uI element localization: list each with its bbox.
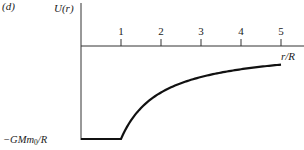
y-min-label: −GMm0/R — [3, 134, 48, 147]
x-ticks: 12345 — [118, 25, 284, 46]
potential-curve — [81, 65, 281, 139]
y-axis-label: U(r) — [54, 2, 74, 15]
x-tick-label: 2 — [158, 25, 164, 37]
panel-label: (d) — [2, 0, 15, 13]
x-tick-label: 5 — [278, 25, 284, 37]
x-tick-label: 3 — [198, 25, 204, 37]
potential-energy-chart: (d) U(r) 12345 r/R −GMm0/R — [0, 0, 304, 150]
x-tick-label: 1 — [118, 25, 124, 37]
x-tick-label: 4 — [238, 25, 244, 37]
x-axis-label: r/R — [281, 50, 295, 62]
